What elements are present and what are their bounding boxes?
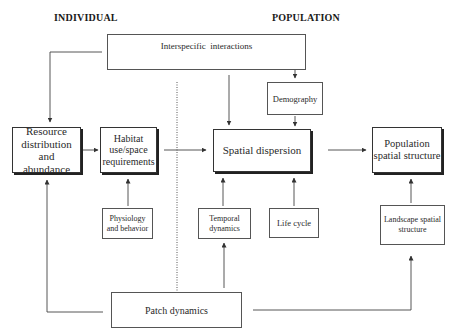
edge-patch-resource [47, 180, 103, 312]
node-demography: Demography [267, 82, 323, 115]
node-temporal-dynamics: Temporal dynamics [198, 208, 251, 239]
node-population-spatial-structure: Population spatial structure [372, 127, 442, 173]
node-label: Landscape spatial structure [381, 215, 444, 235]
node-habitat-use: Habitat use/space requirements [100, 127, 157, 173]
node-physiology-behavior: Physiology and behavior [102, 208, 153, 239]
edge-patch-landscape [253, 256, 411, 310]
node-landscape-spatial-structure: Landscape spatial structure [380, 205, 445, 245]
node-label: Spatial dispersion [223, 144, 302, 157]
node-label: Resource distribution and abundance [14, 125, 79, 175]
node-life-cycle: Life cycle [269, 208, 319, 238]
node-label: Demography [273, 94, 317, 104]
node-label: Habitat use/space requirements [101, 133, 156, 168]
node-label: Population spatial structure [373, 138, 441, 163]
node-label: Temporal dynamics [199, 214, 250, 234]
node-spatial-dispersion: Spatial dispersion [213, 129, 311, 172]
edge-interspecific-resource [50, 52, 102, 122]
node-label: Patch dynamics [145, 305, 208, 316]
node-label: Interspecific interactions [161, 41, 252, 52]
node-label: Physiology and behavior [103, 214, 152, 234]
node-patch-dynamics: Patch dynamics [111, 292, 242, 328]
node-label: Life cycle [277, 218, 311, 228]
node-resource-distribution: Resource distribution and abundance [12, 127, 81, 173]
node-interspecific-interactions: Interspecific interactions [107, 34, 306, 70]
